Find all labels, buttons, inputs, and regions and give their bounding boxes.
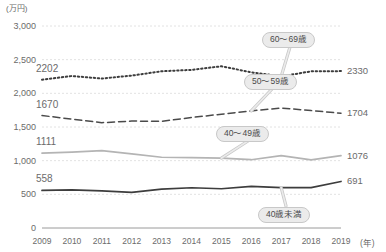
end-value-40〜49歳: 1076 bbox=[347, 150, 368, 161]
x-axis-tick-2009: 2009 bbox=[27, 236, 57, 246]
x-axis-tick-2018: 2018 bbox=[296, 236, 326, 246]
x-axis-tick-2013: 2013 bbox=[147, 236, 177, 246]
start-value-40歳未満: 558 bbox=[36, 173, 53, 184]
x-axis-tick-2014: 2014 bbox=[177, 236, 207, 246]
y-axis-tick-1,000: 1,000 bbox=[2, 156, 36, 166]
start-value-50〜59歳: 1670 bbox=[36, 99, 58, 110]
y-axis-tick-2,000: 2,000 bbox=[2, 88, 36, 98]
callout-60〜69歳: 60〜69歳 bbox=[262, 32, 315, 48]
x-axis-tick-2017: 2017 bbox=[266, 236, 296, 246]
y-axis-tick-1,500: 1,500 bbox=[2, 122, 36, 132]
end-value-50〜59歳: 1704 bbox=[347, 107, 368, 118]
x-axis-tick-2012: 2012 bbox=[117, 236, 147, 246]
end-value-40歳未満: 691 bbox=[347, 175, 363, 186]
end-value-60〜69歳: 2330 bbox=[347, 65, 368, 76]
x-axis-unit-label: (年) bbox=[360, 236, 375, 248]
y-axis-tick-500: 500 bbox=[2, 189, 36, 199]
x-axis-tick-2011: 2011 bbox=[87, 236, 117, 246]
chart-root: (万円) 05001,0001,5002,0002,5003,000200920… bbox=[0, 0, 386, 252]
chart-overlay: 05001,0001,5002,0002,5003,00020092010201… bbox=[0, 0, 386, 252]
x-axis-tick-2019: 2019 bbox=[326, 236, 356, 246]
x-axis-tick-2010: 2010 bbox=[57, 236, 87, 246]
y-axis-tick-2,500: 2,500 bbox=[2, 55, 36, 65]
start-value-40〜49歳: 1111 bbox=[36, 136, 56, 147]
callout-40〜49歳: 40〜49歳 bbox=[216, 126, 269, 142]
x-axis-tick-2016: 2016 bbox=[236, 236, 266, 246]
callout-50〜59歳: 50〜59歳 bbox=[244, 74, 297, 90]
y-axis-tick-3,000: 3,000 bbox=[2, 21, 36, 31]
y-axis-tick-0: 0 bbox=[2, 223, 36, 233]
start-value-60〜69歳: 2202 bbox=[36, 63, 58, 74]
x-axis-tick-2015: 2015 bbox=[206, 236, 236, 246]
callout-40歳未満: 40歳未満 bbox=[258, 207, 310, 223]
